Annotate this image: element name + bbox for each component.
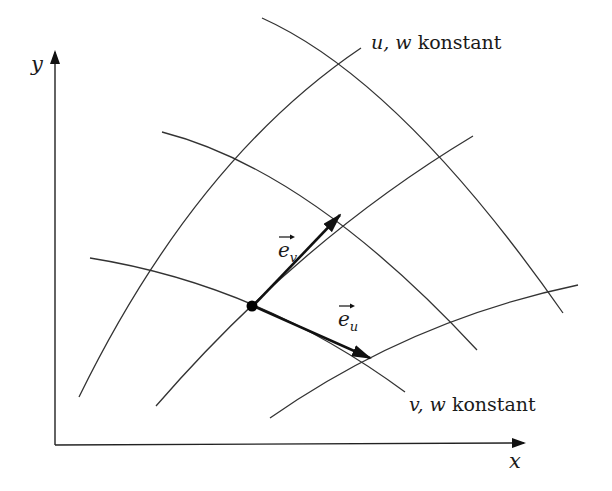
v-w-vars: v, w	[409, 393, 446, 415]
e-u-subscript: u	[350, 319, 358, 334]
curvilinear-coordinates-diagram	[0, 0, 612, 491]
e-v-subscript: v	[290, 250, 297, 265]
v-w-konstant: konstant	[452, 393, 536, 415]
u-w-konstant: konstant	[418, 31, 502, 53]
origin-point	[247, 301, 258, 312]
v-w-constant-label: v, w konstant	[409, 395, 536, 414]
e-v-label: ev	[278, 240, 297, 264]
e-v-base: e	[278, 238, 290, 262]
v-line-left	[79, 48, 361, 397]
v-line-middle	[156, 136, 473, 406]
u-w-constant-label: u, w konstant	[371, 33, 501, 52]
e-u-base: e	[338, 307, 350, 331]
x-axis	[55, 443, 524, 445]
u-line-middle	[162, 132, 477, 350]
e-u-label: eu	[338, 309, 358, 333]
u-line-top	[262, 18, 563, 313]
u-w-vars: u, w	[371, 31, 412, 53]
y-axis-label: y	[31, 54, 43, 75]
x-axis-label: x	[509, 451, 521, 472]
